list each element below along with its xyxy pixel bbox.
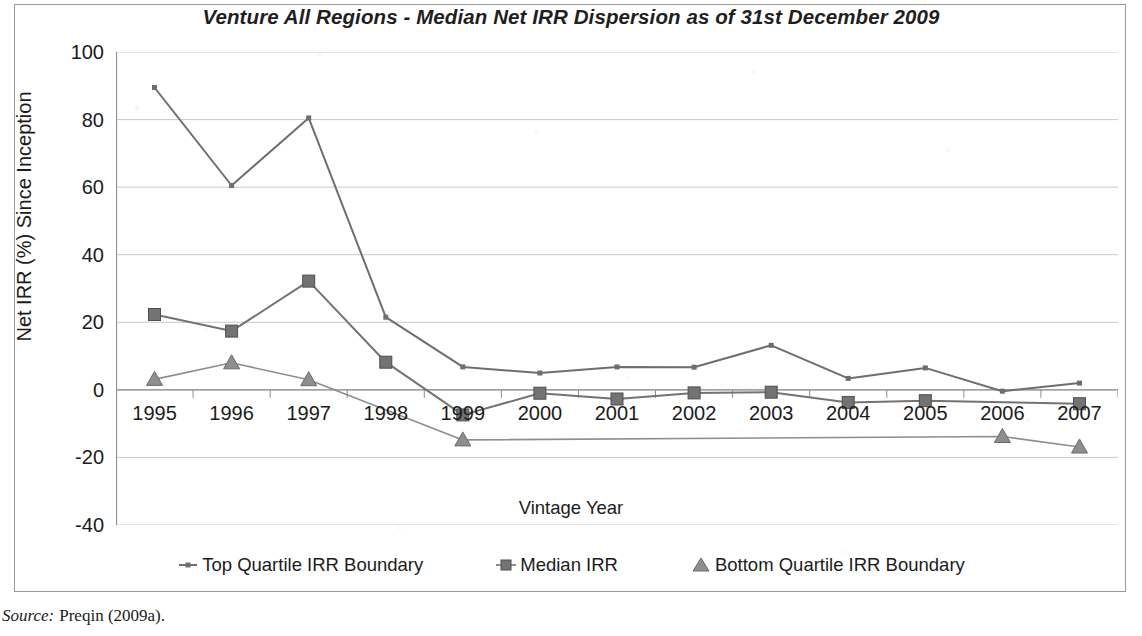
data-point-triangle-marker	[455, 432, 471, 446]
legend-dash-marker-icon	[177, 555, 199, 575]
y-tick-label-1: 80	[34, 108, 104, 131]
figure-container: Venture All Regions - Median Net IRR Dis…	[0, 0, 1142, 600]
legend-item-2[interactable]: Median IRR	[495, 554, 618, 576]
y-tick-label-0: 100	[34, 41, 104, 64]
chart-svg	[116, 52, 1118, 525]
source-note: Source:Preqin (2009a).	[2, 606, 165, 626]
data-point-square-marker	[765, 386, 777, 398]
y-tick-label-2: 60	[34, 176, 104, 199]
legend-label-3: Bottom Quartile IRR Boundary	[715, 554, 965, 576]
data-point-dash-marker	[1077, 381, 1082, 386]
data-point-square-marker	[380, 356, 392, 368]
data-point-triangle-marker	[224, 355, 240, 369]
series-line	[155, 88, 1080, 392]
chart-title: Venture All Regions - Median Net IRR Dis…	[0, 5, 1142, 29]
legend-label-2: Median IRR	[520, 554, 618, 576]
data-point-square-marker	[303, 275, 315, 287]
y-tick-label-7: -40	[34, 514, 104, 537]
data-point-dash-marker	[537, 371, 542, 376]
data-point-triangle-marker	[994, 429, 1010, 443]
x-tick-label-2007: 2007	[1034, 402, 1124, 425]
x-axis-title: Vintage Year	[0, 497, 1142, 519]
data-point-dash-marker	[692, 365, 697, 370]
data-point-dash-marker	[1000, 389, 1005, 394]
legend-label-1: Top Quartile IRR Boundary	[202, 554, 423, 576]
chart-series-1	[152, 85, 1082, 394]
data-point-dash-marker	[152, 85, 157, 90]
data-point-square-marker	[688, 387, 700, 399]
data-point-dash-marker	[769, 343, 774, 348]
data-point-dash-marker	[846, 376, 851, 381]
y-tick-label-5: 0	[34, 378, 104, 401]
plot-area	[116, 52, 1118, 525]
data-point-dash-marker	[615, 364, 620, 369]
legend-square-marker-icon	[495, 555, 517, 575]
legend-triangle-marker-icon	[690, 555, 712, 575]
y-tick-label-6: -20	[34, 446, 104, 469]
data-point-dash-marker	[306, 115, 311, 120]
chart-series-2	[149, 275, 1086, 421]
data-point-square-marker	[149, 309, 161, 321]
data-point-square-marker	[226, 325, 238, 337]
data-point-dash-marker	[229, 183, 234, 188]
source-text: Preqin (2009a).	[59, 606, 165, 625]
y-axis-title: Net IRR (%) Since Inception	[13, 27, 36, 407]
y-tick-label-3: 40	[34, 243, 104, 266]
chart-legend: Top Quartile IRR BoundaryMedian IRRBotto…	[0, 554, 1142, 576]
legend-item-3[interactable]: Bottom Quartile IRR Boundary	[690, 554, 965, 576]
data-point-square-marker	[534, 387, 546, 399]
data-point-dash-marker	[383, 315, 388, 320]
source-label: Source:	[2, 606, 54, 625]
data-point-dash-marker	[460, 364, 465, 369]
legend-item-1[interactable]: Top Quartile IRR Boundary	[177, 554, 423, 576]
data-point-dash-marker	[923, 365, 928, 370]
y-tick-label-4: 20	[34, 311, 104, 334]
